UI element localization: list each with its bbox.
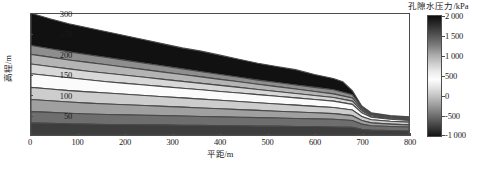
ytick-label-50: 50	[42, 112, 72, 121]
colorbar-tick-label-2000: 2 000	[445, 12, 463, 21]
colorbar-gradient	[427, 15, 442, 137]
xtick-mark-800	[410, 133, 411, 136]
xtick-mark-600	[315, 133, 316, 136]
ytick-label-100: 100	[42, 92, 72, 101]
xtick-mark-0	[30, 133, 31, 136]
y-axis-label: 高程/m	[4, 39, 13, 99]
colorbar-tick-label-0: 0	[445, 92, 449, 101]
xtick-label-500: 500	[248, 138, 288, 147]
ytick-label-250: 250	[42, 30, 72, 39]
ytick-mark-150	[30, 75, 33, 76]
xtick-label-100: 100	[58, 138, 98, 147]
xtick-label-300: 300	[153, 138, 193, 147]
xtick-label-200: 200	[105, 138, 145, 147]
xtick-mark-100	[78, 133, 79, 136]
xtick-mark-400	[220, 133, 221, 136]
xtick-label-600: 600	[295, 138, 335, 147]
ytick-mark-50	[30, 116, 33, 117]
x-axis-label: 平距/m	[0, 150, 440, 159]
xtick-label-400: 400	[200, 138, 240, 147]
xtick-label-700: 700	[343, 138, 383, 147]
xtick-label-0: 0	[10, 138, 50, 147]
colorbar-tick-label-n500: -500	[445, 112, 460, 121]
colorbar-tick-label-500: 500	[445, 72, 457, 81]
colorbar-tick-label-1500: 1 500	[445, 32, 463, 41]
ytick-mark-250	[30, 34, 33, 35]
colorbar-title: 孔隙水压力/kPa	[392, 2, 485, 11]
colorbar: 2 000 1 500 1 000 500 0 -500 -1 000	[427, 15, 442, 137]
colorbar-tick-label-1000: 1 000	[445, 52, 463, 61]
xtick-mark-500	[268, 133, 269, 136]
ytick-label-150: 150	[42, 71, 72, 80]
xtick-mark-300	[173, 133, 174, 136]
xtick-mark-200	[125, 133, 126, 136]
colorbar-tick-label-n1000: -1 000	[445, 131, 466, 140]
ytick-label-300: 300	[42, 10, 72, 19]
contour-bands-svg	[31, 14, 409, 135]
ytick-label-200: 200	[42, 51, 72, 60]
ytick-mark-200	[30, 54, 33, 55]
xtick-mark-700	[363, 133, 364, 136]
xtick-label-800: 800	[390, 138, 430, 147]
figure-root: 300 250 200 150 100 50 0 100 200 300 400…	[0, 0, 485, 174]
ytick-mark-100	[30, 95, 33, 96]
contour-plot-area	[30, 13, 410, 136]
ytick-mark-300	[30, 13, 33, 14]
